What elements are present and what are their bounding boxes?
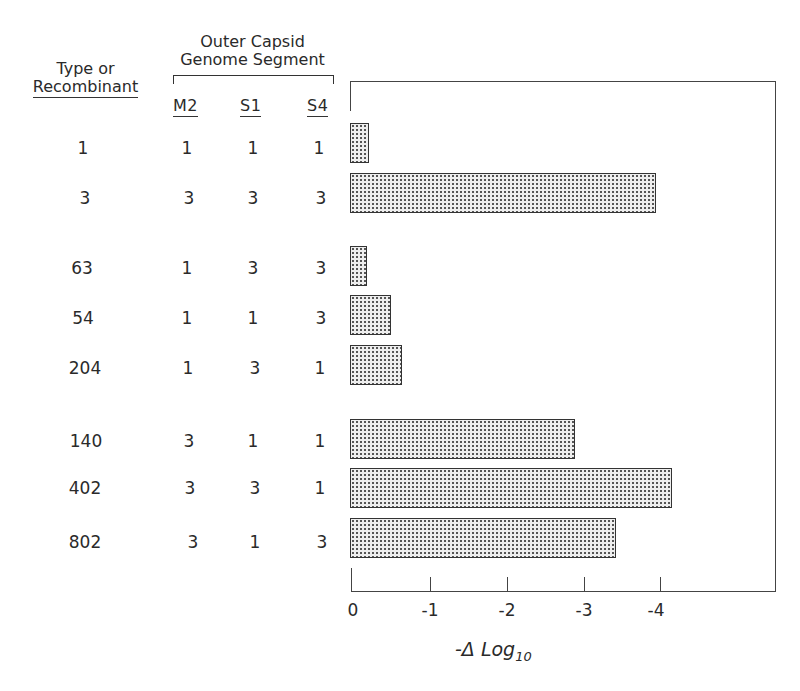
x-tick-4 (660, 577, 661, 591)
s1-cell: 3 (225, 478, 285, 498)
plot-frame-right (775, 81, 776, 591)
x-tick-label-2: -2 (499, 600, 516, 620)
type-cell: 63 (52, 258, 112, 278)
x-tick-0 (351, 568, 352, 591)
s4-cell: 1 (290, 358, 350, 378)
bar-63 (350, 246, 367, 286)
m2-cell: 3 (159, 188, 219, 208)
s1-cell: 1 (223, 431, 283, 451)
m2-cell: 1 (157, 138, 217, 158)
m2-cell: 1 (157, 258, 217, 278)
x-tick-label-4: -4 (648, 600, 665, 620)
m2-cell: 3 (159, 431, 219, 451)
bar-3 (350, 173, 656, 213)
type-cell: 1 (53, 138, 113, 158)
m2-cell: 1 (157, 308, 217, 328)
x-axis-line (351, 591, 776, 592)
x-tick-label-0: 0 (348, 600, 359, 620)
type-cell: 204 (55, 358, 115, 378)
type-cell: 3 (55, 188, 115, 208)
s4-cell: 3 (292, 532, 352, 552)
m2-cell: 3 (160, 478, 220, 498)
group-title-line2: Genome Segment (160, 51, 345, 69)
x-tick-label-3: -3 (576, 600, 593, 620)
s1-cell: 1 (225, 532, 285, 552)
type-cell: 140 (56, 431, 116, 451)
s4-cell: 1 (290, 478, 350, 498)
x-tick-1 (430, 577, 431, 591)
bar-1 (350, 123, 369, 163)
s4-cell: 3 (291, 308, 351, 328)
bar-54 (350, 295, 391, 335)
bar-402 (350, 468, 672, 508)
type-header-line1: Type or (18, 60, 153, 78)
bar-802 (350, 518, 616, 558)
segment-group-title: Outer Capsid Genome Segment (160, 33, 345, 69)
x-tick-2 (507, 577, 508, 591)
type-header: Type or Recombinant (18, 60, 153, 96)
x-axis-label: -Δ Log10 (455, 638, 532, 664)
x-tick-label-1: -1 (422, 600, 439, 620)
s1-cell: 1 (223, 308, 283, 328)
m2-cell: 3 (163, 532, 223, 552)
segment-bracket (173, 75, 334, 84)
s4-cell: 1 (289, 138, 349, 158)
bar-140 (350, 419, 575, 459)
s1-cell: 3 (225, 358, 285, 378)
x-tick-3 (584, 577, 585, 591)
s1-cell: 1 (223, 138, 283, 158)
type-cell: 402 (55, 478, 115, 498)
group-title-line1: Outer Capsid (160, 33, 345, 51)
header-s1: S1 (240, 96, 261, 115)
s1-cell: 3 (223, 258, 283, 278)
type-cell: 802 (55, 532, 115, 552)
s4-cell: 3 (291, 188, 351, 208)
type-header-line2: Recombinant (18, 78, 153, 96)
bar-204 (350, 345, 402, 385)
s4-cell: 3 (291, 258, 351, 278)
s1-cell: 3 (223, 188, 283, 208)
plot-frame-top (350, 81, 776, 82)
plot-frame-left (350, 81, 351, 111)
header-s4: S4 (307, 96, 328, 115)
header-m2: M2 (173, 96, 198, 115)
type-cell: 54 (53, 308, 113, 328)
s4-cell: 1 (290, 431, 350, 451)
m2-cell: 1 (158, 358, 218, 378)
